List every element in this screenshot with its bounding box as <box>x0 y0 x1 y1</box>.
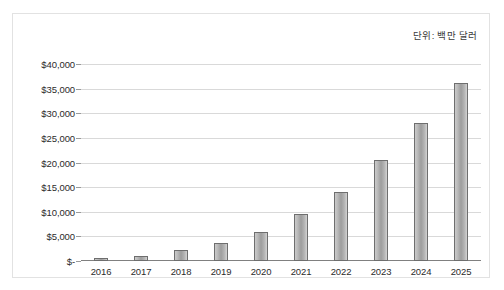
y-tick-mark <box>76 89 81 90</box>
y-tick-mark <box>76 113 81 114</box>
y-tick-label: $10,000 <box>41 206 75 217</box>
y-axis-labels: $40,000$35,000$30,000$25,000$20,000$15,0… <box>13 64 75 261</box>
y-tick-label: $15,000 <box>41 182 75 193</box>
x-axis-labels: 2016201720182019202020212022202320242025 <box>81 266 481 282</box>
x-tick-label: 2021 <box>281 266 321 277</box>
bar-2019 <box>214 243 228 261</box>
x-tick-label: 2022 <box>321 266 361 277</box>
x-tick-label: 2017 <box>121 266 161 277</box>
x-tick-label: 2024 <box>401 266 441 277</box>
bar-2022 <box>334 192 348 261</box>
y-tick-label: $- <box>67 256 75 267</box>
bar-2021 <box>294 214 308 261</box>
y-tick-label: $40,000 <box>41 59 75 70</box>
gridline <box>81 64 481 65</box>
y-tick-label: $35,000 <box>41 83 75 94</box>
plot-area <box>81 64 481 261</box>
chart-container: 단위: 백만 달러 $40,000$35,000$30,000$25,000$2… <box>12 13 490 278</box>
x-tick-label: 2020 <box>241 266 281 277</box>
y-tick-mark <box>76 212 81 213</box>
unit-annotation: 단위: 백만 달러 <box>413 28 477 42</box>
x-tick-label: 2023 <box>361 266 401 277</box>
x-tick-label: 2018 <box>161 266 201 277</box>
x-tick-label: 2025 <box>441 266 481 277</box>
bar-2018 <box>174 250 188 261</box>
y-tick-label: $5,000 <box>47 231 75 242</box>
gridline <box>81 113 481 114</box>
bar-2020 <box>254 232 268 261</box>
x-tick-label: 2019 <box>201 266 241 277</box>
y-tick-mark <box>76 261 81 262</box>
x-tick-label: 2016 <box>81 266 121 277</box>
y-tick-label: $25,000 <box>41 132 75 143</box>
y-tick-mark <box>76 187 81 188</box>
y-tick-mark <box>76 163 81 164</box>
y-tick-label: $20,000 <box>41 157 75 168</box>
y-tick-mark <box>76 236 81 237</box>
y-tick-mark <box>76 138 81 139</box>
y-tick-mark <box>76 64 81 65</box>
bar-2016 <box>94 258 108 261</box>
gridline <box>81 89 481 90</box>
y-tick-label: $30,000 <box>41 108 75 119</box>
bar-2023 <box>374 160 388 261</box>
bar-2024 <box>414 123 428 261</box>
bar-2025 <box>454 83 468 261</box>
bar-2017 <box>134 256 148 261</box>
